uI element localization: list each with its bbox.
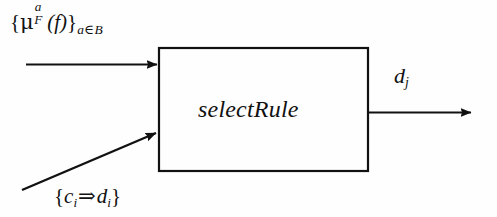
membership-qualifier: a∈B — [77, 22, 103, 37]
input-label-membership: {μaF(f)}a∈B — [10, 8, 103, 36]
membership-qualifier-op: ∈ — [84, 22, 94, 37]
rules-implies-symbol: ⇒ — [77, 184, 97, 208]
membership-argument: (f) — [47, 10, 67, 34]
input-arrow-rules — [22, 133, 156, 190]
rules-close-brace: } — [111, 184, 121, 208]
output-symbol: d — [394, 63, 405, 88]
output-subscript: j — [405, 75, 409, 90]
membership-subscript: F — [34, 13, 42, 26]
diagram-canvas: {μaF(f)}a∈B selectRule dj {ci⇒di} — [0, 0, 497, 217]
membership-mu-symbol: μ — [20, 10, 34, 34]
membership-close-brace: } — [67, 10, 77, 34]
process-block-label: selectRule — [198, 97, 299, 121]
membership-open-brace: { — [10, 10, 20, 34]
output-label-decision: dj — [394, 65, 409, 90]
input-label-rules: {ci⇒di} — [54, 186, 121, 209]
rules-open-brace: { — [54, 184, 64, 208]
membership-qualifier-set: B — [94, 22, 103, 37]
membership-sup-sub: aF — [34, 8, 47, 29]
rules-consequent: d — [97, 184, 108, 208]
